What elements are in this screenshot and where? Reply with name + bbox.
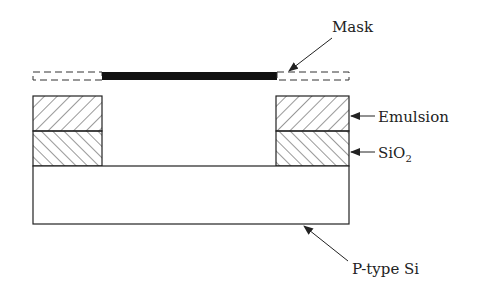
mask-opaque-region xyxy=(102,72,277,80)
emulsion-left xyxy=(33,96,102,131)
p-type-si-substrate xyxy=(33,166,349,224)
sio2-left xyxy=(33,131,102,166)
mask xyxy=(33,72,349,80)
sio2-label-main: SiO xyxy=(378,144,405,162)
sio2-right xyxy=(276,131,349,166)
mask-leader-arrow xyxy=(289,38,332,71)
emulsion-label: Emulsion xyxy=(378,108,449,126)
emulsion-layer xyxy=(33,96,349,131)
emulsion-right xyxy=(276,96,349,131)
mask-label: Mask xyxy=(332,18,374,36)
substrate-leader-arrow xyxy=(304,226,348,261)
p-type-si-label: P-type Si xyxy=(352,260,419,278)
mask-transparent-left xyxy=(33,72,102,80)
diagram-canvas: Mask Emulsion SiO2 P-type Si xyxy=(0,0,488,301)
sio2-layer xyxy=(33,131,349,166)
mask-transparent-right xyxy=(277,72,349,80)
sio2-label-subscript: 2 xyxy=(405,153,411,164)
sio2-label: SiO2 xyxy=(378,144,412,164)
